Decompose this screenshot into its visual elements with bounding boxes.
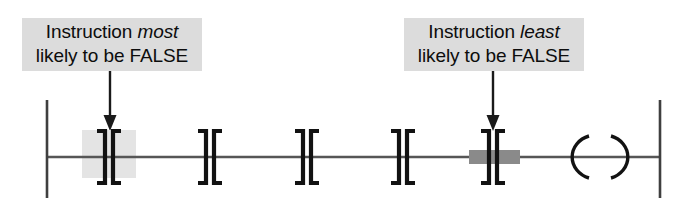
- ladder-logic-figure: Instruction most likely to be FALSE Inst…: [0, 0, 694, 208]
- contact-5-highlight-bar: [469, 150, 520, 164]
- arrow-to-contact-5-icon: [487, 71, 500, 131]
- contact-1-highlight-box: [82, 130, 136, 178]
- ladder-diagram: [0, 0, 694, 208]
- arrow-to-contact-1-icon: [104, 71, 117, 131]
